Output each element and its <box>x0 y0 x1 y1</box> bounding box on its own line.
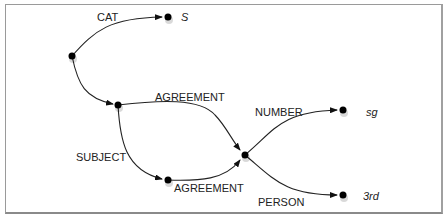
node-agreement-source <box>115 102 122 109</box>
label-person: PERSON <box>258 196 305 208</box>
node-cat-value <box>165 14 172 21</box>
node-subject <box>165 177 172 184</box>
edge-root-to-agr <box>72 56 113 104</box>
node-number-value <box>340 107 347 114</box>
value-3rd: 3rd <box>363 190 380 202</box>
label-subject: SUBJECT <box>76 151 126 163</box>
label-agreement-bottom: AGREEMENT <box>174 182 244 194</box>
label-agreement-top: AGREEMENT <box>155 91 225 103</box>
node-person-value <box>340 192 347 199</box>
label-cat: CAT <box>97 11 118 23</box>
value-sg: sg <box>366 106 379 118</box>
value-s: S <box>181 11 189 23</box>
edge-agreement-bottom <box>168 160 240 180</box>
edge-agreement-top <box>118 101 240 150</box>
node-root <box>69 53 76 60</box>
edge-person <box>245 155 337 195</box>
label-number: NUMBER <box>255 106 303 118</box>
node-shared-agreement <box>242 152 249 159</box>
feature-graph: CAT S AGREEMENT SUBJECT AGREEMENT NUMBER… <box>0 0 447 217</box>
edge-subject <box>118 105 162 179</box>
